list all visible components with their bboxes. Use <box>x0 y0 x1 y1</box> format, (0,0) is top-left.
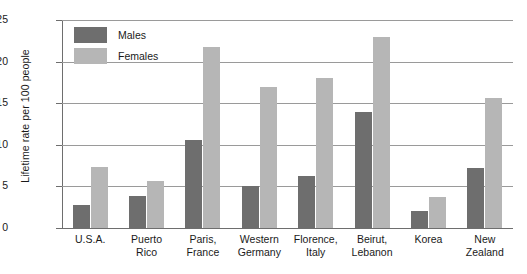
bar-females-4 <box>316 78 333 228</box>
legend-swatch-males-icon <box>74 27 107 43</box>
x-tick-label-1: PuertoRico <box>118 233 174 258</box>
bar-chart: Lifetime rate per 100 people 0510152025 … <box>0 0 527 274</box>
x-tick-label-6: Korea <box>400 233 456 246</box>
y-tick-label-5: 5 <box>0 179 8 191</box>
x-tick-label-5: Beirut,Lebanon <box>344 233 400 258</box>
bar-males-6 <box>411 211 428 228</box>
bar-males-2 <box>185 140 202 228</box>
y-tick-label-15: 15 <box>0 96 8 108</box>
legend-label-females: Females <box>118 50 158 62</box>
bar-females-3 <box>260 87 277 228</box>
y-axis-title: Lifetime rate per 100 people <box>19 16 31 216</box>
x-tick-label-0: U.S.A. <box>62 233 118 246</box>
legend-label-males: Males <box>118 29 146 41</box>
y-tick-label-0: 0 <box>0 221 8 233</box>
x-tick-label-4: Florence,Italy <box>288 233 344 258</box>
bar-females-5 <box>373 37 390 228</box>
bar-females-2 <box>203 47 220 228</box>
bar-females-0 <box>91 167 108 228</box>
y-tick-label-20: 20 <box>0 55 8 67</box>
x-tick-label-2: Paris,France <box>175 233 231 258</box>
bar-females-1 <box>147 181 164 228</box>
bar-males-4 <box>298 176 315 228</box>
gridline-15 <box>62 103 513 104</box>
gridline-0 <box>62 228 513 229</box>
gridline-25 <box>62 20 513 21</box>
x-tick-label-3: WesternGermany <box>231 233 287 258</box>
legend-item-males: Males <box>74 27 158 43</box>
x-tick-label-7: NewZealand <box>457 233 513 258</box>
legend-swatch-females-icon <box>74 48 107 64</box>
bar-males-5 <box>355 112 372 228</box>
bar-males-3 <box>242 186 259 228</box>
bar-males-7 <box>467 168 484 228</box>
legend-item-females: Females <box>74 48 158 64</box>
bar-males-0 <box>73 205 90 228</box>
y-tick-label-25: 25 <box>0 13 8 25</box>
bar-females-6 <box>429 197 446 228</box>
y-tick-label-10: 10 <box>0 138 8 150</box>
chart-legend: Males Females <box>74 27 158 69</box>
bar-females-7 <box>485 98 502 228</box>
gridline-5 <box>62 186 513 187</box>
gridline-10 <box>62 145 513 146</box>
bar-males-1 <box>129 196 146 228</box>
